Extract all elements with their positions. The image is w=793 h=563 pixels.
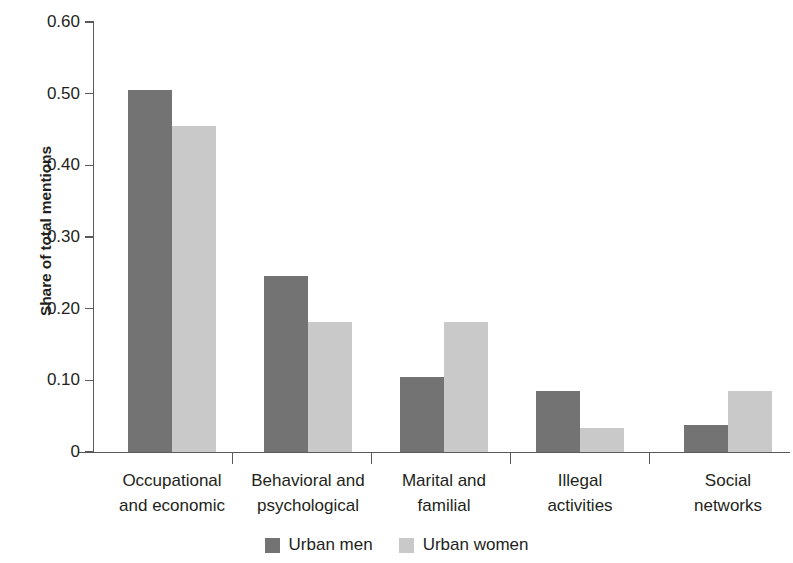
legend-item: Urban men bbox=[265, 535, 373, 555]
x-axis-line bbox=[78, 452, 790, 453]
legend-swatch bbox=[265, 538, 280, 553]
x-axis-separator-tick bbox=[510, 453, 511, 464]
bar bbox=[400, 377, 444, 452]
bar bbox=[128, 90, 172, 452]
bars-layer bbox=[0, 0, 793, 452]
x-axis-category-label-line: networks bbox=[638, 493, 793, 518]
bar bbox=[684, 425, 728, 452]
bar bbox=[580, 428, 624, 452]
bar bbox=[172, 126, 216, 452]
chart-legend: Urban menUrban women bbox=[0, 535, 793, 555]
x-axis-category-label-line: Social bbox=[638, 468, 793, 493]
bar bbox=[444, 322, 488, 452]
bar bbox=[308, 322, 352, 452]
x-axis-separator-tick bbox=[649, 453, 650, 464]
x-axis-category-label: Socialnetworks bbox=[638, 468, 793, 518]
bar bbox=[264, 276, 308, 452]
bar bbox=[728, 391, 772, 452]
x-axis-separator-tick bbox=[371, 453, 372, 464]
legend-label: Urban women bbox=[423, 535, 529, 555]
bar-chart-figure: Share of total mentions 00.100.200.300.4… bbox=[0, 0, 793, 563]
legend-swatch bbox=[399, 538, 414, 553]
legend-label: Urban men bbox=[289, 535, 373, 555]
bar bbox=[536, 391, 580, 452]
legend-item: Urban women bbox=[399, 535, 529, 555]
x-axis-separator-tick bbox=[232, 453, 233, 464]
